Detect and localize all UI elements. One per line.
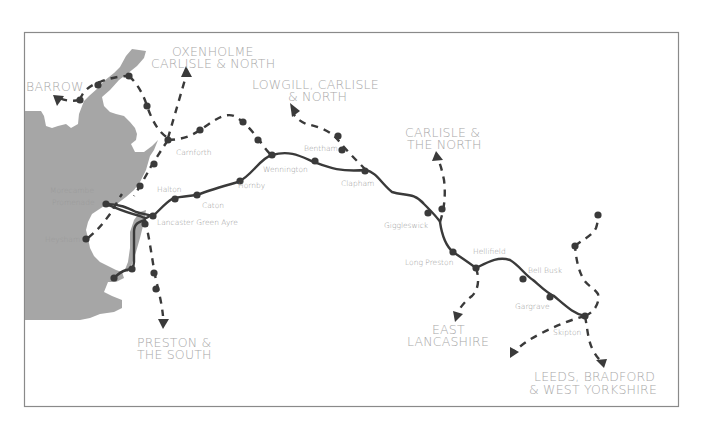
label-hornby: Hornby — [238, 181, 266, 190]
label-lancaster-green-ayre: Lancaster Green Ayre — [157, 218, 238, 227]
label-long-preston: Long Preston — [405, 258, 453, 267]
dest-preston-l2: THE SOUTH — [137, 347, 212, 362]
label-bell-busk: Bell Busk — [528, 266, 563, 275]
dest-oxenholme-l2: CARLISLE & NORTH — [151, 56, 275, 71]
label-morecambe-promenade: Promenade — [52, 198, 95, 207]
route-map: Morecambe Promenade Heysham Lancaster Gr… — [0, 0, 702, 426]
label-gargrave: Gargrave — [515, 302, 550, 311]
label-giggleswick: Giggleswick — [384, 221, 429, 230]
label-carnforth: Carnforth — [176, 148, 212, 157]
label-wennington: Wennington — [263, 165, 308, 174]
label-bentham: Bentham — [304, 144, 338, 153]
dest-carlisle-l2: THE NORTH — [407, 137, 482, 152]
label-heysham: Heysham — [45, 235, 80, 244]
dest-lowgill-l2: & NORTH — [288, 89, 347, 104]
label-skipton: Skipton — [553, 328, 581, 337]
label-halton: Halton — [157, 185, 182, 194]
dest-barrow: BARROW — [26, 79, 84, 94]
dest-leeds-l2: & WEST YORKSHIRE — [529, 382, 657, 397]
label-caton: Caton — [202, 201, 224, 210]
label-hellifield: Hellifield — [473, 247, 506, 256]
label-clapham: Clapham — [341, 179, 374, 188]
label-morecambe: Morecambe — [50, 186, 94, 195]
dest-east-lancs-l2: LANCASHIRE — [407, 334, 489, 349]
